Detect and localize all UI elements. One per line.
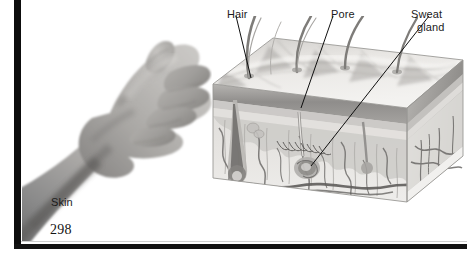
page-number: 298 <box>50 222 72 238</box>
page-frame-left-bar <box>14 0 21 248</box>
page-frame-bottom-hairline <box>21 241 467 242</box>
diagram-label-gland: gland <box>417 21 444 33</box>
diagram-label-hair: Hair <box>227 8 248 20</box>
photo-caption-skin: Skin <box>51 196 73 208</box>
diagram-label-pore: Pore <box>331 8 355 20</box>
skin-cross-section-diagram <box>211 16 467 216</box>
book-page: Hair Pore Sweat gland Skin 298 <box>0 0 467 253</box>
diagram-label-sweat: Sweat <box>411 8 442 20</box>
page-frame-bottom-bar <box>14 244 467 249</box>
